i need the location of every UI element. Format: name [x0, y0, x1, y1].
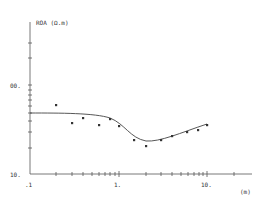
chart: ROA (Ω.m) 00. 10. .1 1. 10. (m) — [0, 0, 263, 202]
data-points — [55, 104, 208, 147]
y-tick-10: 10. — [10, 171, 21, 178]
y-tick-100: 00. — [10, 82, 21, 89]
y-axis-label: ROA (Ω.m) — [36, 19, 69, 26]
x-tick-0.1: .1 — [25, 181, 33, 188]
x-tick-10: 10. — [201, 181, 212, 188]
x-tick-1: 1. — [114, 181, 121, 188]
x-axis-unit: (m) — [240, 188, 251, 195]
